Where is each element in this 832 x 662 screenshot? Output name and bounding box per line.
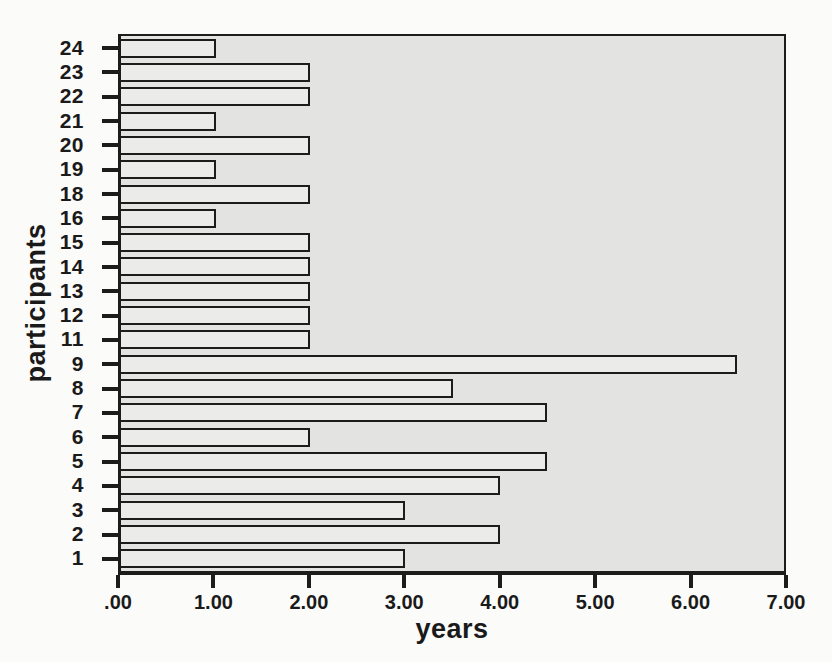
y-tick-label-7: 7	[0, 400, 84, 424]
y-tick-mark	[102, 95, 118, 99]
bar-participant-1	[121, 549, 405, 568]
y-tick-label-21: 21	[0, 109, 84, 133]
y-tick-label-23: 23	[0, 60, 84, 84]
x-tick-mark	[784, 575, 788, 588]
y-tick-label-5: 5	[0, 449, 84, 473]
y-tick-mark	[102, 168, 118, 172]
y-tick-label-9: 9	[0, 352, 84, 376]
x-tick-label-4.00: 4.00	[455, 591, 545, 614]
y-tick-mark	[102, 508, 118, 512]
y-tick-mark	[102, 143, 118, 147]
y-tick-mark	[102, 362, 118, 366]
y-tick-mark	[102, 289, 118, 293]
y-tick-mark	[102, 411, 118, 415]
x-tick-mark	[689, 575, 693, 588]
bar-participant-14	[121, 257, 310, 276]
y-tick-label-8: 8	[0, 376, 84, 400]
bar-participant-24	[121, 39, 216, 58]
y-tick-mark	[102, 387, 118, 391]
x-tick-mark	[593, 575, 597, 588]
y-tick-label-13: 13	[0, 279, 84, 303]
bar-participant-19	[121, 160, 216, 179]
bar-participant-5	[121, 452, 547, 471]
bar-participant-15	[121, 233, 310, 252]
bar-participant-9	[121, 355, 737, 374]
y-tick-mark	[102, 484, 118, 488]
bar-participant-22	[121, 87, 310, 106]
plot-area	[118, 34, 786, 575]
x-tick-label-1.00: 1.00	[168, 591, 258, 614]
y-tick-mark	[102, 533, 118, 537]
y-tick-label-14: 14	[0, 255, 84, 279]
y-tick-mark	[102, 338, 118, 342]
y-tick-label-16: 16	[0, 206, 84, 230]
bar-participant-16	[121, 209, 216, 228]
y-tick-label-19: 19	[0, 157, 84, 181]
x-axis-title: years	[415, 614, 488, 645]
y-tick-label-1: 1	[0, 546, 84, 570]
bar-participant-11	[121, 330, 310, 349]
y-tick-label-4: 4	[0, 473, 84, 497]
y-tick-mark	[102, 314, 118, 318]
bar-chart-figure: participants years 242322212019181615141…	[0, 0, 832, 662]
y-tick-mark	[102, 46, 118, 50]
y-tick-mark	[102, 70, 118, 74]
y-tick-label-22: 22	[0, 84, 84, 108]
bar-participant-2	[121, 525, 500, 544]
y-tick-label-20: 20	[0, 133, 84, 157]
y-tick-mark	[102, 460, 118, 464]
y-tick-label-3: 3	[0, 498, 84, 522]
bar-participant-3	[121, 501, 405, 520]
bar-participant-8	[121, 379, 453, 398]
y-tick-mark	[102, 557, 118, 561]
y-tick-label-12: 12	[0, 303, 84, 327]
y-tick-mark	[102, 265, 118, 269]
x-tick-mark	[498, 575, 502, 588]
y-tick-mark	[102, 216, 118, 220]
y-tick-label-2: 2	[0, 522, 84, 546]
x-tick-mark	[116, 575, 120, 588]
bar-participant-7	[121, 403, 547, 422]
x-tick-label-7.00: 7.00	[741, 591, 831, 614]
x-tick-label-6.00: 6.00	[646, 591, 736, 614]
y-tick-label-18: 18	[0, 182, 84, 206]
x-tick-label-3.00: 3.00	[359, 591, 449, 614]
x-tick-label-5.00: 5.00	[550, 591, 640, 614]
y-tick-label-15: 15	[0, 230, 84, 254]
x-tick-mark	[402, 575, 406, 588]
bar-participant-21	[121, 112, 216, 131]
bar-participant-12	[121, 306, 310, 325]
y-tick-label-6: 6	[0, 425, 84, 449]
y-tick-mark	[102, 192, 118, 196]
bar-participant-4	[121, 476, 500, 495]
bar-participant-23	[121, 63, 310, 82]
y-tick-label-24: 24	[0, 36, 84, 60]
y-tick-mark	[102, 119, 118, 123]
x-tick-mark	[211, 575, 215, 588]
x-tick-label-2.00: 2.00	[264, 591, 354, 614]
bar-participant-6	[121, 428, 310, 447]
y-tick-mark	[102, 241, 118, 245]
bar-participant-18	[121, 185, 310, 204]
y-tick-mark	[102, 435, 118, 439]
y-tick-label-11: 11	[0, 327, 84, 351]
x-tick-label-.00: .00	[73, 591, 163, 614]
x-tick-mark	[307, 575, 311, 588]
bar-participant-20	[121, 136, 310, 155]
bar-participant-13	[121, 282, 310, 301]
